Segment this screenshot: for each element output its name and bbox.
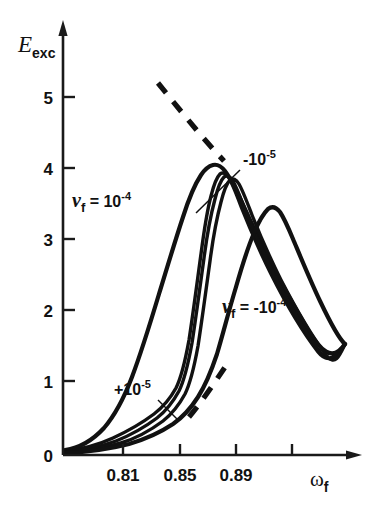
curve-plus-1e-5-a (65, 173, 345, 451)
dashed-upper-backbone (158, 83, 224, 161)
y-axis-arrowhead (58, 20, 67, 36)
annotation-plus-1e-5-text: +10 (114, 381, 141, 398)
axis-group (58, 20, 362, 460)
y-tick-label-4: 4 (44, 160, 54, 179)
y-axis-title-subscript: exc (32, 45, 56, 61)
annotation-group: νf = 10-4 νf = -10-4 -10-5 +10-5 (72, 148, 287, 398)
y-tick-label-0: 0 (44, 447, 53, 466)
x-axis-title-main: ω (310, 467, 324, 491)
x-axis-title: ωf (310, 467, 329, 495)
x-tick-label-081: 0.81 (106, 466, 139, 485)
annotation-nu-plus-1e-4-sup: -4 (121, 190, 132, 202)
annotation-nu-plus-1e-4-eq: = 10 (85, 193, 121, 210)
annotation-plus-1e-5: +10-5 (114, 378, 151, 398)
x-axis-title-subscript: f (324, 479, 329, 495)
y-axis-title: Eexc (17, 32, 56, 61)
x-tick-label-089: 0.89 (219, 466, 252, 485)
x-axis-arrowhead (346, 450, 362, 459)
dashed-lower-backbone (189, 361, 229, 417)
annotation-minus-1e-5-text: -10 (243, 151, 266, 168)
annotation-nu-minus-1e-4-sup: -4 (277, 296, 288, 308)
annotation-minus-1e-5-sup: -5 (266, 148, 276, 160)
annotation-nu-plus-1e-4: νf = 10-4 (72, 189, 132, 215)
annotation-plus-1e-5-sup: -5 (141, 378, 151, 390)
y-tick-label-1: 1 (44, 373, 53, 392)
figure-container: 5 4 3 2 1 0 0.81 0.85 0.89 Eexc ωf νf = … (0, 0, 384, 513)
y-axis-title-main: E (17, 32, 32, 57)
resonance-chart: 5 4 3 2 1 0 0.81 0.85 0.89 Eexc ωf νf = … (0, 0, 384, 513)
y-tick-label-3: 3 (44, 231, 53, 250)
annotation-minus-1e-5: -10-5 (243, 148, 276, 168)
annotation-nu-minus-1e-4-eq: = -10 (235, 299, 276, 316)
y-tick-label-5: 5 (44, 89, 53, 108)
y-tick-label-2: 2 (44, 302, 53, 321)
x-tick-label-085: 0.85 (163, 466, 196, 485)
